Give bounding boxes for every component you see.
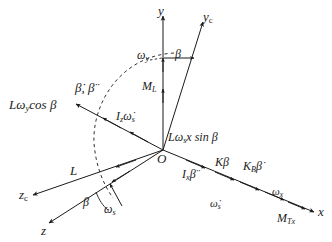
beta-sweep-arc [94, 53, 174, 198]
Ix-beta-ddot-label: Ixβ̈ [182, 168, 196, 182]
L-vector-label: L [70, 164, 77, 177]
M-Tx-label: MTx [277, 212, 295, 226]
axis-label-x: x [318, 205, 324, 218]
origin-label: O [157, 152, 166, 165]
omega-s-bottom-label: ωs [104, 203, 116, 217]
beta-dot-ddot-label: β̇, β̈ [75, 81, 94, 94]
M-Tx-arrow [288, 202, 305, 209]
axis-zc-line [33, 150, 163, 195]
L-omega-y-cos-beta-label: Lωycos β [9, 98, 56, 113]
omega-y-label: ωy [137, 49, 149, 63]
diagram-svg [0, 0, 332, 242]
L-omega-s-x-sin-beta-label: Lωsx sin β [168, 131, 218, 145]
M-L-label: ML [142, 80, 157, 94]
axis-label-y: y [158, 4, 164, 17]
omega-s-dot-label: ω̇s [210, 198, 221, 211]
K-beta-label: Kβ [215, 156, 229, 168]
axis-label-yc: yc [203, 10, 213, 25]
beta-top-label: β [175, 48, 181, 60]
z-axis-inner-arrow [112, 171, 130, 182]
omega-x-label: ωx [272, 186, 283, 199]
axis-label-zc: zc [19, 188, 28, 203]
Iz-omega-s-dot-arrow [130, 132, 148, 142]
KB-beta-dot-arrow [240, 182, 259, 190]
Iz-omega-s-dot-label: Izω̇s [116, 110, 135, 124]
axis-label-z: z [41, 224, 46, 237]
KB-beta-dot-label: KBβ̇ [243, 160, 262, 174]
beta-bottom-label: β [83, 196, 89, 208]
beta-arrow-dashed-lead [150, 58, 162, 60]
diagram-canvas: y yc x z zc O ωy β ML Lωycos β β̇, β̈ Iz… [0, 0, 332, 242]
L-vector-arrow [116, 160, 136, 167]
K-beta-arrow [215, 172, 234, 180]
